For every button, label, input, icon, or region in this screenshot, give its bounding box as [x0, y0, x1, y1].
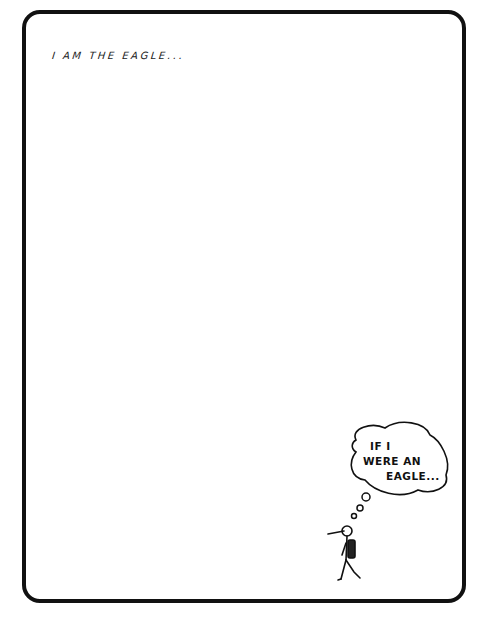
backpack-icon: [348, 540, 355, 558]
bubble-line-1: IF I: [370, 440, 391, 452]
stick-figure-icon: [328, 526, 360, 580]
thought-dot-icon: [352, 514, 357, 519]
thought-dot-icon: [357, 505, 363, 511]
thought-bubble-illustration: IF I WERE AN EAGLE...: [0, 0, 489, 622]
bubble-line-3: EAGLE...: [386, 470, 440, 482]
bubble-line-2: WERE AN: [363, 455, 421, 467]
thought-dot-icon: [362, 493, 370, 501]
